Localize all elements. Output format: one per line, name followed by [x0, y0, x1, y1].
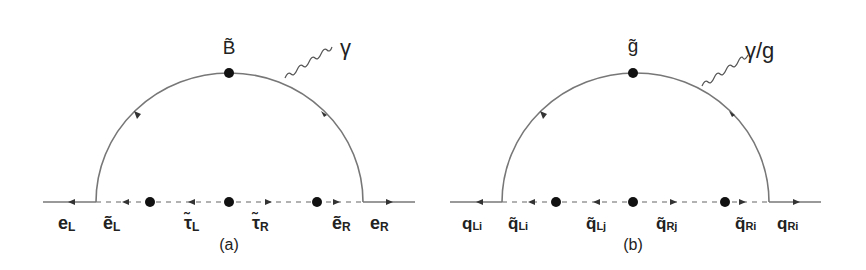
arrow-left-icon [122, 199, 129, 205]
photon-line-a [285, 47, 332, 78]
loop-particle-label: B̃ [223, 37, 236, 58]
arrow-right-icon [670, 199, 677, 205]
feynman-diagrams: B̃ γ eL ẽL τ̃L τ̃R ẽR eR (a) g̃ γ/g qLi … [0, 0, 866, 270]
arrow-left-icon [593, 199, 600, 205]
mass-insertion-dot [551, 197, 561, 207]
mass-insertion-dot [720, 197, 730, 207]
internal-label: ẽL [103, 213, 120, 234]
internal-label: ẽR [332, 213, 351, 234]
mass-insertion-dot [145, 197, 155, 207]
boson-label: γ [340, 35, 351, 60]
arrow-right-icon [265, 199, 272, 205]
arrow-arc-icon [134, 111, 141, 119]
arrow-right-icon [793, 199, 800, 205]
panel-b: g̃ γ/g qLi q̃Li q̃Lj q̃Rj q̃Ri qRi (b) [450, 35, 821, 253]
arrow-arc-icon [540, 111, 547, 119]
external-right-label: qRi [777, 214, 798, 233]
internal-label: q̃Li [508, 214, 528, 233]
mass-insertion-dot [312, 197, 322, 207]
gaugino-arc-b [502, 73, 769, 202]
gaugino-arc-a [96, 73, 363, 202]
arrow-left-icon [476, 199, 483, 205]
mass-insertion-dot [628, 197, 638, 207]
panel-caption: (a) [219, 236, 239, 253]
gaugino-vertex-dot [628, 68, 638, 78]
internal-label: q̃Rj [656, 214, 677, 233]
mass-insertion-dot [224, 197, 234, 207]
internal-label: q̃Ri [735, 214, 756, 233]
panel-a: B̃ γ eL ẽL τ̃L τ̃R ẽR eR (a) [43, 35, 415, 253]
gaugino-vertex-dot [224, 68, 234, 78]
external-left-label: qLi [462, 214, 482, 233]
internal-label: τ̃R [251, 211, 269, 234]
panel-caption: (b) [623, 236, 643, 253]
external-right-label: eR [370, 213, 389, 234]
internal-label: τ̃L [183, 211, 199, 234]
internal-label: q̃Lj [586, 214, 606, 233]
external-left-label: eL [58, 213, 75, 234]
arrow-left-icon [68, 199, 75, 205]
boson-line-b [702, 55, 748, 86]
loop-particle-label: g̃ [628, 35, 639, 56]
arrow-right-icon [739, 199, 746, 205]
arrow-left-icon [528, 199, 535, 205]
arrow-left-icon [188, 199, 195, 205]
arrow-right-icon [333, 199, 340, 205]
arrow-right-icon [386, 199, 393, 205]
boson-label: γ/g [745, 38, 774, 63]
